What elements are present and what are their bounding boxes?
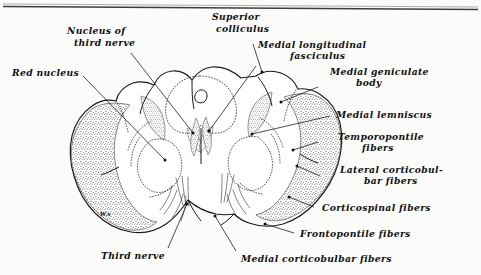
label-medial-corticobulbar-fibers: Medial corticobulbar fibers	[240, 253, 392, 264]
label-superior-colliculus-line2: colliculus	[216, 23, 269, 34]
label-temporopontile-fibers-line2: fibers	[361, 142, 394, 153]
label-medial-lemniscus: Medial lemniscus	[335, 109, 432, 120]
label-lateral-corticobulbar-fibers-line1: Lateral corticobul-	[339, 164, 443, 175]
label-frontopontile-fibers-line1: Frontopontile fibers	[299, 228, 411, 239]
label-initials-mark-text: W.s	[100, 211, 111, 217]
label-nucleus-of-third-nerve-line2: third nerve	[74, 37, 135, 48]
label-lateral-corticobulbar-fibers-line2: bar fibers	[364, 175, 418, 186]
label-medial-lemniscus-line1: Medial lemniscus	[335, 109, 432, 120]
anatomy-figure: Nucleus of third nerve Superior collicul…	[0, 0, 481, 275]
label-medial-geniculate-body-line1: Medial geniculate	[329, 66, 429, 77]
label-nucleus-of-third-nerve-line1: Nucleus of	[66, 25, 127, 36]
label-superior-colliculus-line1: Superior	[212, 11, 260, 22]
label-initials-mark: W.s	[100, 211, 111, 217]
label-medial-corticobulbar-fibers-line1: Medial corticobulbar fibers	[240, 253, 392, 264]
label-temporopontile-fibers-line1: Temporopontile	[338, 131, 424, 142]
label-nucleus-of-third-nerve: Nucleus of third nerve	[66, 25, 135, 48]
label-third-nerve-line1: Third nerve	[101, 250, 165, 261]
label-corticospinal-fibers: Corticospinal fibers	[322, 202, 431, 213]
label-red-nucleus: Red nucleus	[11, 67, 79, 78]
label-third-nerve: Third nerve	[101, 250, 165, 261]
label-medial-geniculate-body-line2: body	[356, 77, 382, 88]
label-red-nucleus-line1: Red nucleus	[11, 67, 79, 78]
label-corticospinal-fibers-line1: Corticospinal fibers	[322, 202, 431, 213]
label-medial-longitudinal-fasciculus-line1: Medial longitudinal	[257, 39, 367, 50]
label-frontopontile-fibers: Frontopontile fibers	[299, 228, 411, 239]
label-medial-longitudinal-fasciculus-line2: fasciculus	[289, 50, 345, 61]
